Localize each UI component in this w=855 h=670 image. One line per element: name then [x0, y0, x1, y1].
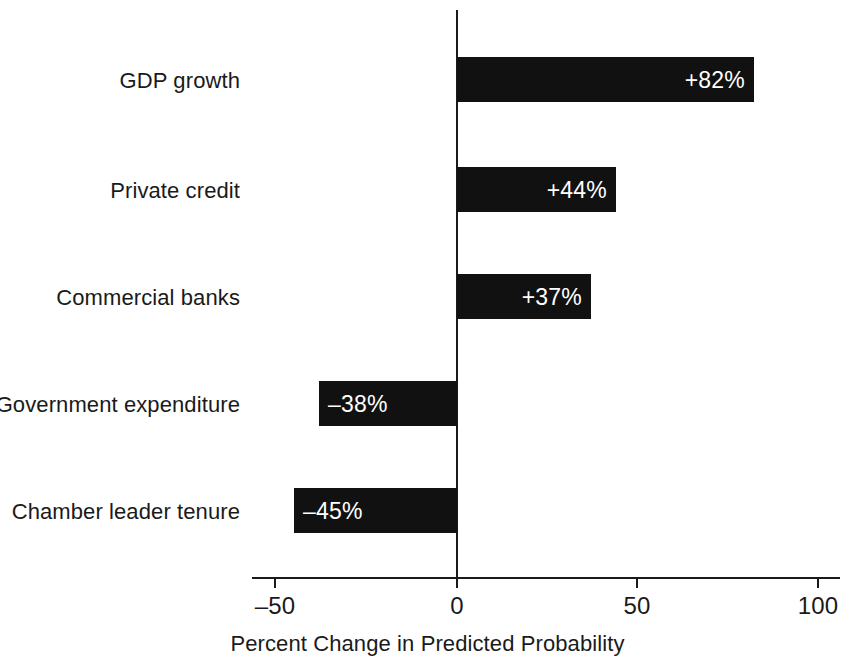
bar-chart-figure: +82% +44% +37% –38% –45% GDP growth Priv…: [0, 0, 855, 670]
x-tick-mark-100: [817, 579, 819, 588]
category-label-government-expenditure: Government expenditure: [0, 392, 240, 418]
x-tick-mark-0: [456, 579, 458, 588]
bar-government-expenditure[interactable]: –38%: [319, 381, 457, 426]
category-label-gdp-growth: GDP growth: [0, 68, 240, 94]
category-label-private-credit: Private credit: [0, 178, 240, 204]
bar-value-label: +37%: [522, 284, 582, 310]
bar-chamber-leader-tenure[interactable]: –45%: [294, 488, 457, 533]
bar-private-credit[interactable]: +44%: [457, 167, 616, 212]
x-tick-mark-50: [636, 579, 638, 588]
category-label-chamber-leader-tenure: Chamber leader tenure: [0, 499, 240, 525]
bar-value-label: +44%: [547, 177, 607, 203]
plot-area: +82% +44% +37% –38% –45% GDP growth Priv…: [0, 0, 855, 670]
bar-value-label: –38%: [328, 391, 388, 417]
x-axis-title: Percent Change in Predicted Probability: [0, 630, 855, 658]
bar-value-label: –45%: [303, 498, 363, 524]
x-axis-line: [252, 577, 840, 579]
x-tick-label-100: 100: [798, 592, 839, 620]
category-label-commercial-banks: Commercial banks: [0, 285, 240, 311]
x-tick-label-0: 0: [450, 592, 464, 620]
bar-value-label: +82%: [685, 67, 745, 93]
bar-gdp-growth[interactable]: +82%: [457, 57, 754, 102]
x-tick-label-50: 50: [623, 592, 650, 620]
x-tick-label-minus50: –50: [255, 592, 296, 620]
bar-commercial-banks[interactable]: +37%: [457, 274, 591, 319]
x-tick-mark-minus50: [274, 579, 276, 588]
